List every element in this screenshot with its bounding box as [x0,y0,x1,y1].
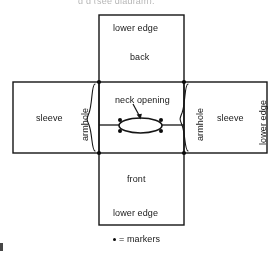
right-shoulder-marker [182,80,186,84]
neck-left-bottom-marker [118,129,122,133]
garment-construction-diagram [0,0,276,260]
markers-legend: = markers [113,234,160,244]
right-lower-edge-label: lower edge [259,100,268,145]
left-armhole-label: armhole [81,108,90,141]
right-underarm-marker [182,151,186,155]
neck-opening-ellipse [119,118,162,133]
neck-left-top-marker [118,118,122,122]
left-underarm-marker [97,151,101,155]
neck-opening-label: neck opening [115,96,170,105]
left-sleeve-label: sleeve [36,114,63,123]
back-lower-edge-label: lower edge [113,24,158,33]
scanned-page: g g (see diagram). [0,0,276,260]
neck-right-top-marker [159,118,163,122]
legend-markers-text: markers [127,234,160,244]
marker-dot-icon [113,238,116,241]
front-label: front [127,175,146,184]
left-shoulder-marker [97,80,101,84]
scan-edge-artifact [0,243,3,251]
front-lower-edge-label: lower edge [113,209,158,218]
legend-equals-sign: = [119,234,124,244]
neck-right-bottom-marker [159,129,163,133]
right-armhole-label: armhole [196,108,205,141]
right-sleeve-label: sleeve [217,114,244,123]
back-label: back [130,53,149,62]
